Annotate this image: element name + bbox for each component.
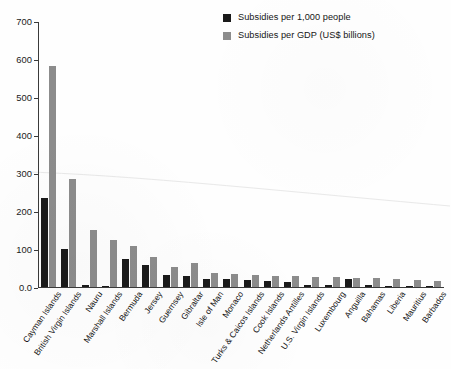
bar — [325, 285, 332, 287]
y-axis-tick-mark — [34, 174, 38, 175]
bar-group — [201, 22, 221, 287]
bar — [353, 278, 360, 287]
y-axis-tick-mark — [34, 212, 38, 213]
y-axis-tick-mark — [34, 288, 38, 289]
bar — [90, 230, 97, 287]
bar — [393, 279, 400, 287]
bar — [426, 286, 433, 288]
bar — [373, 278, 380, 287]
y-axis-tick-mark — [34, 60, 38, 61]
y-axis-tick-mark — [34, 136, 38, 137]
y-axis-tick-label: 100 — [16, 245, 32, 254]
bar-group — [302, 22, 322, 287]
bar-group — [221, 22, 241, 287]
bar-group — [39, 22, 59, 287]
bar — [110, 240, 117, 287]
bar — [69, 179, 76, 287]
bar — [142, 265, 149, 287]
legend-item: Subsidies per 1,000 people — [223, 13, 375, 22]
y-axis-tick-label: 400 — [16, 131, 32, 140]
bar-group — [282, 22, 302, 287]
bar-group — [424, 22, 444, 287]
bar-group — [404, 22, 424, 287]
y-axis-tick-label: 700 — [16, 17, 32, 26]
bar-group — [363, 22, 383, 287]
bar — [264, 281, 271, 287]
bar — [183, 276, 190, 287]
bar — [150, 257, 157, 287]
bar — [191, 263, 198, 287]
legend-swatch-icon — [223, 14, 231, 22]
bar — [385, 286, 392, 288]
bar — [41, 198, 48, 287]
bar-group — [140, 22, 160, 287]
bar — [292, 276, 299, 287]
bar — [61, 249, 68, 287]
bar — [312, 277, 319, 287]
bar — [365, 285, 372, 287]
bar — [231, 274, 238, 287]
bar-group — [262, 22, 282, 287]
bar-group — [343, 22, 363, 287]
y-axis-tick-mark — [34, 250, 38, 251]
bar — [406, 286, 413, 288]
bar — [211, 273, 218, 287]
bar — [122, 259, 129, 287]
x-axis-category-labels: Cayman IslandsBritish Virgin IslandsNaur… — [39, 290, 445, 369]
legend-item-label: Subsidies per 1,000 people — [238, 13, 351, 22]
plot-area: 0.0100200300400500600700 — [38, 22, 444, 288]
bar — [203, 279, 210, 287]
bar — [345, 279, 352, 287]
bar — [130, 246, 137, 287]
y-axis-tick-mark — [34, 98, 38, 99]
bar-chart: Subsidies per 1,000 peopleSubsidies per … — [0, 0, 451, 369]
bar — [49, 66, 56, 287]
bar-group — [383, 22, 403, 287]
bar — [252, 275, 259, 287]
bar-group — [120, 22, 140, 287]
bar-group — [80, 22, 100, 287]
bar — [171, 267, 178, 287]
y-axis-tick-label: 600 — [16, 55, 32, 64]
bar — [163, 275, 170, 287]
bar-group — [100, 22, 120, 287]
x-axis-line — [38, 287, 444, 288]
bar — [244, 280, 251, 287]
y-axis-tick-label: 300 — [16, 169, 32, 178]
bar — [304, 285, 311, 287]
bar-group — [59, 22, 79, 287]
y-axis-tick-label: 200 — [16, 207, 32, 216]
bar — [414, 280, 421, 287]
bar — [284, 282, 291, 287]
y-axis-tick-label: 0.0 — [19, 283, 32, 292]
bar — [223, 279, 230, 287]
bar — [434, 281, 441, 287]
y-axis-tick-label: 500 — [16, 93, 32, 102]
y-axis-tick-mark — [34, 22, 38, 23]
bar-group — [242, 22, 262, 287]
bar-group — [181, 22, 201, 287]
bar — [82, 285, 89, 287]
bar-group — [161, 22, 181, 287]
bar-series-container — [39, 22, 444, 287]
bar — [102, 286, 109, 287]
bar-group — [323, 22, 343, 287]
bar — [333, 277, 340, 287]
bar — [272, 276, 279, 287]
